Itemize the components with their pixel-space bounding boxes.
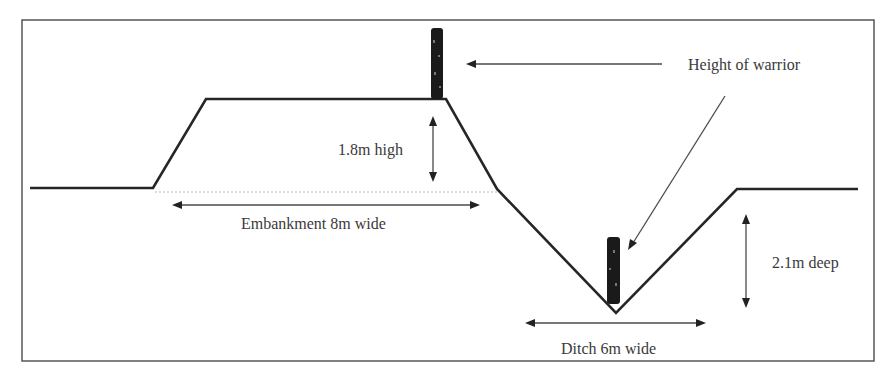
terrain-profile: [30, 99, 858, 313]
warrior-diagonal-arrow: [628, 96, 725, 250]
ditch-width-arrow: [525, 319, 706, 327]
embankment-width-label: Embankment 8m wide: [241, 215, 386, 232]
warrior-height-arrow: [466, 60, 662, 68]
ditch-width-label: Ditch 6m wide: [561, 340, 656, 357]
warrior-in-ditch: [607, 237, 620, 304]
embankment-width-arrow: [172, 201, 480, 209]
warrior-on-embankment: [431, 28, 443, 99]
embankment-height-label: 1.8m high: [338, 141, 403, 159]
embankment-height-arrow: [429, 116, 437, 182]
warrior-height-label: Height of warrior: [688, 56, 801, 74]
ditch-depth-label: 2.1m deep: [772, 254, 839, 272]
embankment-ditch-diagram: Height of warrior 1.8m high Embankment 8…: [0, 0, 896, 385]
ditch-depth-arrow: [742, 214, 750, 308]
